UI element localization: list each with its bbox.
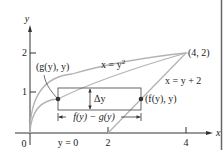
delta-y-arrow [88, 89, 91, 110]
y-tick-label-2: 2 [22, 47, 27, 58]
delta-y-label: Δy [94, 93, 105, 104]
x-axis-arrow-icon [206, 131, 213, 135]
point-f-label: (f(y), y) [145, 93, 177, 105]
point-f [139, 97, 144, 102]
x-tick-label-2: 2 [106, 137, 111, 148]
y-axis-label: y [24, 13, 30, 24]
baseline-label: y = 0 [58, 137, 79, 148]
intersection-label: (4, 2) [188, 47, 210, 59]
width-label: f(y) − g(y) [73, 111, 115, 123]
line-label: x = y + 2 [165, 75, 201, 86]
parabola-label: x = y2 [101, 58, 126, 70]
y-axis-arrow-icon [28, 25, 32, 32]
x-tick-label-4: 4 [184, 137, 189, 148]
x-axis-label: x [215, 127, 221, 138]
point-g-label: (g(y), y) [36, 61, 69, 73]
origin-label: 0 [22, 138, 27, 149]
y-tick-label-1: 1 [22, 86, 27, 97]
region-diagram: y x 0 2 1 2 4 y = 0 (g(y), y) (f(y), y) … [0, 0, 224, 150]
